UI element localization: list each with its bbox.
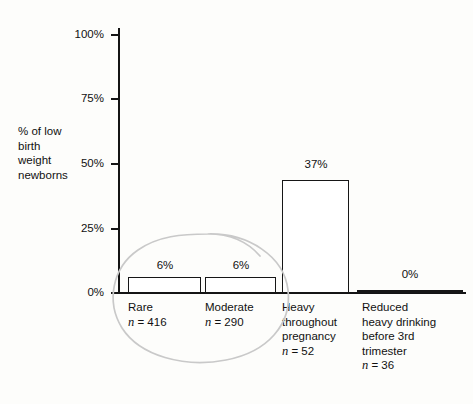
category-name-moderate: Moderate <box>205 300 254 315</box>
bar-value-reduced-heavy-drinking: 0% <box>379 268 441 280</box>
category-n-moderate: n = 290 <box>205 315 254 330</box>
category-label-reduced-heavy-drinking: Reduced heavy drinking before 3rd trimes… <box>362 300 436 373</box>
category-n-rare: n = 416 <box>128 315 167 330</box>
bar-rare[interactable] <box>128 277 201 293</box>
category-label-heavy-throughout-pregnancy: Heavy throughout pregnancy n = 52 <box>282 300 337 358</box>
category-n-heavy: n = 52 <box>282 344 337 359</box>
y-axis-title-line-1: % of low <box>18 124 104 139</box>
category-label-rare: Rare n = 416 <box>128 300 167 329</box>
n-value-rare: = 416 <box>134 316 166 328</box>
category-name-heavy-line-1: Heavy <box>282 300 337 315</box>
n-value-reduced: = 36 <box>368 359 394 371</box>
bar-heavy-throughout-pregnancy[interactable] <box>282 180 349 293</box>
category-name-reduced-line-3: before 3rd <box>362 329 436 344</box>
y-tick-label-25: 25% <box>48 222 104 234</box>
bar-value-moderate: 6% <box>210 259 272 271</box>
y-axis-title-line-4: newborns <box>18 168 104 183</box>
category-name-heavy-line-3: pregnancy <box>282 329 337 344</box>
category-name-reduced-line-2: heavy drinking <box>362 315 436 330</box>
y-axis-title: % of low birth weight newborns <box>18 124 104 182</box>
hand-drawn-ellipse-annotation <box>108 228 298 368</box>
y-tick-mark-25 <box>111 228 119 230</box>
y-axis-title-line-2: birth <box>18 139 104 154</box>
category-name-reduced-line-4: trimester <box>362 344 436 359</box>
ellipse-stroke <box>113 234 288 362</box>
y-tick-mark-0 <box>111 292 119 294</box>
y-tick-label-0: 0% <box>48 286 104 298</box>
category-n-reduced: n = 36 <box>362 358 436 373</box>
y-tick-label-75: 75% <box>48 92 104 104</box>
category-name-rare: Rare <box>128 300 167 315</box>
y-tick-mark-100 <box>111 34 119 36</box>
bar-reduced-heavy-drinking[interactable] <box>357 290 463 293</box>
y-tick-label-50: 50% <box>48 157 104 169</box>
bar-value-heavy-throughout-pregnancy: 37% <box>285 158 347 170</box>
y-tick-mark-75 <box>111 98 119 100</box>
chart-figure: % of low birth weight newborns 100% 75% … <box>0 0 473 404</box>
category-name-reduced-line-1: Reduced <box>362 300 436 315</box>
n-value-heavy: = 52 <box>288 345 314 357</box>
category-name-heavy-line-2: throughout <box>282 315 337 330</box>
bar-value-rare: 6% <box>134 259 196 271</box>
y-tick-label-100: 100% <box>48 28 104 40</box>
bar-moderate[interactable] <box>205 277 276 293</box>
n-value-moderate: = 290 <box>211 316 243 328</box>
y-axis-line <box>118 28 120 294</box>
y-tick-mark-50 <box>111 163 119 165</box>
category-label-moderate: Moderate n = 290 <box>205 300 254 329</box>
